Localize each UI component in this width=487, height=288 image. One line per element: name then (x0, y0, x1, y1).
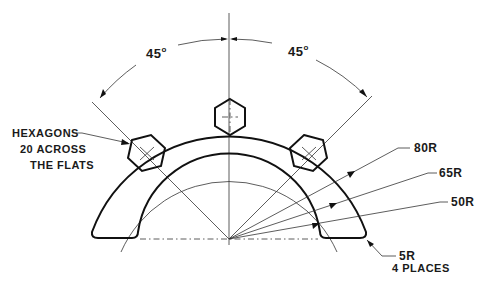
angle-dim-arc-right-top (232, 39, 272, 43)
radius-label-50R: 50R (451, 195, 475, 209)
hexagon-note-line3: THE FLATS (30, 159, 94, 171)
arrow-icon (121, 139, 130, 145)
arrow-icon (221, 37, 228, 41)
angle-label-left: 45o (146, 45, 167, 61)
radius-label-65R: 65R (439, 166, 463, 180)
angle-dim-arc-right (316, 60, 367, 97)
technical-drawing: 45o 45o HEXAGONS 20 ACROSS THE FLATS 80R… (0, 0, 487, 288)
fillet-note-line2: 4 PLACES (392, 262, 450, 274)
fillet-leader (367, 240, 396, 256)
radius-leader-50R (229, 202, 448, 239)
hexagon-top (215, 99, 245, 135)
hexagon-note-line2: 20 ACROSS (20, 143, 86, 155)
fillet-note-line1: 5R (399, 249, 415, 263)
arrow-icon (230, 37, 237, 41)
hexagon-note-leader (76, 133, 128, 143)
angle-dim-arc-left-top (178, 39, 226, 45)
extension-line-left-45 (92, 102, 229, 239)
arrow-icon (100, 89, 106, 98)
angle-label-right: 45o (288, 43, 309, 59)
radius-label-80R: 80R (414, 141, 438, 155)
hexagon-note-line1: HEXAGONS (12, 127, 79, 139)
arrow-icon (329, 203, 337, 209)
